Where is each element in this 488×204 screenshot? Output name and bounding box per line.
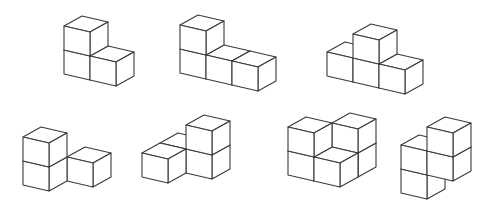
figure-5 (142, 115, 230, 183)
cube (427, 117, 471, 157)
cube (64, 16, 108, 56)
cube (353, 24, 397, 64)
figure-1 (64, 16, 134, 86)
cube (232, 51, 276, 91)
cube (332, 113, 376, 153)
cube (288, 117, 332, 157)
cube (23, 127, 67, 167)
figure-6 (288, 113, 376, 187)
cube (180, 15, 224, 55)
figure-2 (180, 15, 276, 91)
figure-7 (401, 117, 471, 199)
cube (186, 115, 230, 155)
figure-4 (23, 127, 111, 191)
cube (142, 143, 186, 183)
figure-3 (327, 24, 423, 94)
cube (67, 147, 111, 187)
cube-figures-diagram (0, 0, 488, 204)
